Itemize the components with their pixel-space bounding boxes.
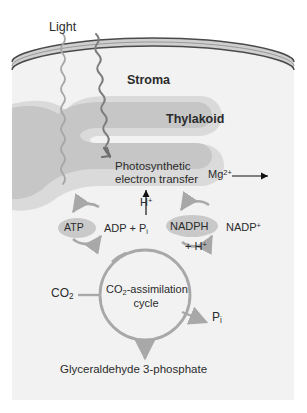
co2-text: CO [51, 286, 69, 300]
photosynthetic-electron-transfer-label: Photosynthetic electron transfer [115, 160, 198, 186]
adp-text: ADP + P [104, 222, 146, 234]
figure-canvas: Light Stroma Thylakoid Photosynthetic el… [0, 0, 307, 413]
atp-label: ATP [64, 222, 84, 234]
co2-sub: 2 [69, 292, 74, 301]
plus-h-text: + H [185, 240, 202, 252]
pet-line2: electron transfer [115, 173, 198, 185]
h-charge: + [148, 196, 152, 205]
product-label: Glyceraldehyde 3-phosphate [60, 363, 207, 376]
pi-sub: i [220, 316, 222, 325]
mg-charge: 2+ [223, 168, 232, 177]
assimilation-cycle-label: CO2-assimilation cycle [106, 283, 186, 309]
co2-input-label: CO2 [51, 287, 74, 301]
nadp-charge: + [257, 221, 261, 230]
mg-text: Mg [208, 168, 223, 180]
plus-h-charge: + [202, 240, 206, 249]
cycle-co2-text: CO [106, 283, 123, 295]
nadph-label: NADPH [170, 220, 209, 232]
h-text: H [140, 196, 148, 208]
diagram-svg [0, 0, 307, 413]
pet-line1: Photosynthetic [115, 160, 190, 172]
proton-label: H+ [140, 196, 152, 208]
nadp-label: NADP+ [226, 221, 261, 233]
thylakoid-label: Thylakoid [166, 112, 224, 126]
light-label: Light [49, 20, 76, 34]
pi-output-label: Pi [212, 311, 222, 325]
plus-h-label: + H+ [185, 240, 207, 252]
adp-pi-label: ADP + Pi [104, 222, 148, 236]
adp-sub: i [146, 227, 148, 236]
magnesium-label: Mg2+ [208, 168, 232, 180]
cycle-assimilation-text: -assimilation [127, 283, 188, 295]
cycle-line2: cycle [133, 297, 158, 309]
stroma-label: Stroma [127, 73, 170, 87]
pi-text: P [212, 310, 220, 324]
nadp-text: NADP [226, 221, 257, 233]
